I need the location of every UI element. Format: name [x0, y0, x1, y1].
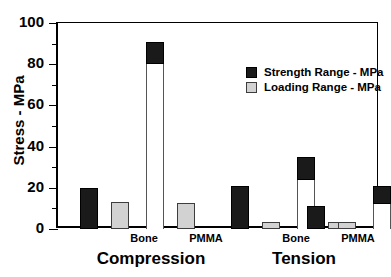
group-label-compression: Compression [71, 250, 231, 267]
bar-segment-loading [111, 202, 129, 229]
bar-shear-bone-loading [338, 23, 356, 229]
bar-segment-strength [80, 188, 98, 229]
category-label-pmma-1: PMMA [166, 233, 246, 244]
legend-swatch-loading [246, 82, 257, 93]
y-tick-label-40: 40 [0, 138, 44, 153]
bar-shear-bone-strength [307, 23, 325, 229]
category-label-pmma-3: PMMA [318, 233, 391, 244]
bar-segment-strength [373, 186, 391, 205]
bar-tension-bone-loading [262, 23, 280, 229]
y-axis-title: Stress - MPa [10, 51, 27, 191]
y-tick-0 [49, 229, 58, 230]
y-tick-20 [49, 188, 58, 189]
bar-stem-outline [373, 204, 391, 229]
bar-segment-strength [231, 186, 249, 229]
bar-compression-bone-strength [80, 23, 98, 229]
y-tick-100 [49, 23, 58, 24]
y-tick-40 [49, 147, 58, 148]
bar-compression-bone-loading [111, 23, 129, 229]
bar-segment-strength [307, 206, 325, 229]
y-tick-60 [49, 105, 58, 106]
bar-compression-pmma-loading [177, 23, 195, 229]
bar-segment-loading [338, 222, 356, 229]
chart-figure: Stress - MPa 020406080100 Strength Range… [0, 0, 391, 277]
bar-stem-outline [146, 64, 164, 229]
bar-tension-bone-strength [231, 23, 249, 229]
y-tick-label-0: 0 [0, 220, 44, 235]
bar-segment-loading [177, 203, 195, 229]
legend-label: Loading Range - MPa [264, 82, 381, 94]
plot-area: Strength Range - MPaLoading Range - MPa [56, 22, 378, 228]
bar-shear-pmma-strength [373, 23, 391, 229]
legend-item-loading: Loading Range - MPa [246, 82, 383, 94]
y-tick-label-60: 60 [0, 96, 44, 111]
chart-legend: Strength Range - MPaLoading Range - MPa [246, 67, 383, 96]
group-label-shear: Shear [348, 250, 391, 267]
bar-series-container [58, 23, 377, 226]
y-tick-80 [49, 64, 58, 65]
legend-item-strength: Strength Range - MPa [246, 67, 383, 79]
legend-label: Strength Range - MPa [264, 67, 383, 79]
legend-swatch-strength [246, 67, 257, 78]
y-tick-label-100: 100 [0, 14, 44, 29]
bar-segment-loading [262, 222, 280, 229]
y-tick-label-20: 20 [0, 179, 44, 194]
y-tick-label-80: 80 [0, 55, 44, 70]
bar-segment-strength [146, 42, 164, 65]
bar-compression-pmma-strength [146, 23, 164, 229]
